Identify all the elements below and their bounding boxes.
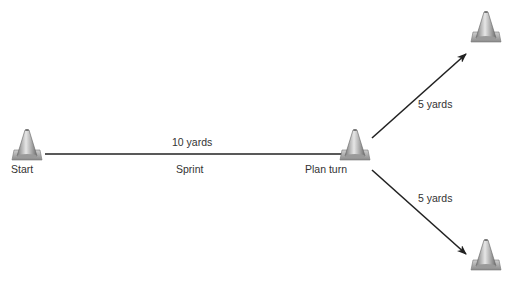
sprint-distance-label: 10 yards	[172, 136, 212, 148]
plan-turn-label: Plan turn	[305, 163, 347, 175]
bottom-cone-icon	[471, 239, 501, 270]
drill-diagram	[0, 0, 513, 284]
sprint-action-label: Sprint	[176, 163, 203, 175]
plan-turn-cone-icon	[340, 129, 370, 160]
upper-distance-label: 5 yards	[418, 98, 452, 110]
top-cone-icon	[471, 11, 501, 42]
start-label: Start	[11, 163, 33, 175]
lower-branch-arrow	[372, 170, 466, 254]
lower-distance-label: 5 yards	[418, 192, 452, 204]
start-cone-icon	[12, 129, 42, 160]
upper-branch-arrow	[372, 54, 466, 138]
